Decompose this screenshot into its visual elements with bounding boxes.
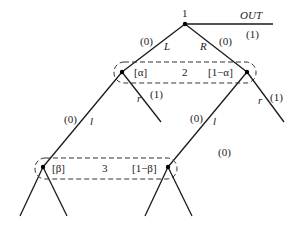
right-l-payoff: (0) [190, 112, 203, 125]
left-l-payoff: (0) [64, 113, 77, 126]
L-label: L [163, 40, 170, 52]
edge-left-l [43, 72, 122, 167]
R-label: R [199, 40, 207, 52]
game-tree: 1 OUT (1) (0) L R (0) [α] 2 [1−α] r (1) … [0, 0, 298, 228]
node-root [183, 22, 187, 26]
beta-belief: [β] [52, 162, 65, 174]
edge-L [122, 24, 185, 72]
edge-p3l-a [20, 167, 43, 216]
edge-p3r-b [168, 167, 192, 216]
node-p3-right [166, 165, 170, 169]
one-minus-beta-belief: [1−β] [132, 162, 157, 174]
right-r-payoff: (1) [270, 91, 283, 104]
edge-p3l-b [43, 167, 67, 216]
left-r-label: r [137, 92, 142, 104]
L-payoff: (0) [140, 35, 153, 48]
node-p2-right [245, 70, 249, 74]
out-payoff: (1) [246, 28, 259, 41]
alpha-belief: [α] [134, 66, 147, 78]
one-minus-alpha-belief: [1−α] [208, 66, 233, 78]
R-payoff: (0) [219, 35, 232, 48]
extra-payoff: (0) [218, 146, 231, 159]
left-r-payoff: (1) [150, 88, 163, 101]
right-r-label: r [258, 94, 263, 106]
player3-label: 3 [102, 162, 108, 174]
right-l-label: l [213, 115, 216, 127]
edge-p3r-a [145, 167, 168, 216]
node-p2-left [120, 70, 124, 74]
player1-label: 1 [182, 7, 188, 19]
player2-label: 2 [182, 66, 188, 78]
left-l-label: l [90, 115, 93, 127]
node-p3-left [41, 165, 45, 169]
out-label: OUT [240, 9, 263, 21]
edge-right-l [168, 72, 247, 167]
edge-R [185, 24, 247, 72]
